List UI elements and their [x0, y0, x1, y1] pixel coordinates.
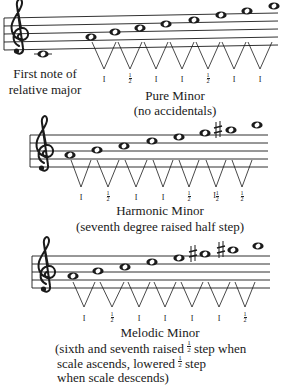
step-half: 12 — [106, 312, 118, 323]
step-one-and-half: I12 — [208, 191, 224, 202]
interval-vees — [73, 282, 255, 307]
step-whole: I — [75, 194, 87, 202]
step-whole: I — [130, 194, 142, 202]
note-g-sharp — [225, 126, 236, 133]
subtitle-pure-minor: (no accidentals) — [100, 103, 250, 118]
label-first-note-line2: relative major — [0, 82, 90, 97]
note-a — [64, 151, 75, 158]
subtitle-melodic-minor-line3: when scale descends) — [57, 370, 169, 385]
step-half: 12 — [236, 191, 248, 202]
note-e — [173, 133, 184, 140]
title-melodic-minor: Melodic Minor — [70, 325, 250, 340]
note-d — [160, 20, 171, 27]
note-c — [134, 24, 145, 31]
treble-clef-icon — [12, 0, 29, 54]
step-whole: I — [133, 315, 145, 323]
step-whole: I — [228, 76, 240, 84]
note-relative-major — [34, 50, 52, 57]
staff-pure-minor — [4, 0, 280, 69]
note-a-high — [252, 242, 263, 249]
step-half: 12 — [183, 191, 195, 202]
step-whole: I — [157, 194, 169, 202]
label-first-note-line1: First note of — [0, 66, 90, 81]
step-whole: I — [98, 76, 110, 84]
note-d — [146, 258, 157, 265]
note-b — [92, 267, 103, 274]
step-whole: I — [78, 315, 90, 323]
subtitle-harmonic-minor: (seventh degree raised half step) — [50, 219, 270, 234]
staff-melodic-minor — [32, 237, 270, 307]
note-e — [173, 254, 184, 261]
interval-vees — [71, 160, 252, 187]
step-half: 12 — [202, 73, 214, 84]
sharp-icon — [189, 245, 197, 262]
step-whole: I — [150, 76, 162, 84]
note-d — [146, 137, 157, 144]
title-harmonic-minor: Harmonic Minor — [70, 203, 250, 218]
note-f — [215, 11, 226, 18]
note-b — [109, 28, 120, 35]
step-half: 12 — [239, 312, 251, 323]
sharp-icon — [217, 241, 225, 258]
subtitle-melodic-minor-line2: scale ascends, lowered 12 step — [57, 355, 206, 371]
note-a-high — [268, 2, 279, 9]
subtitle-melodic-minor-line1: (sixth and seventh raised 12 step when — [55, 340, 246, 356]
note-g — [241, 7, 252, 14]
step-whole: I — [159, 315, 171, 323]
step-whole: I — [254, 76, 266, 84]
step-half: 12 — [102, 191, 114, 202]
staff-harmonic-minor — [30, 116, 268, 187]
step-half: 12 — [124, 73, 136, 84]
step-whole: I — [176, 76, 188, 84]
note-f — [199, 129, 210, 136]
title-pure-minor: Pure Minor — [100, 88, 250, 103]
step-whole: I — [213, 315, 225, 323]
note-b — [91, 146, 102, 153]
note-e — [188, 16, 199, 23]
note-a — [67, 272, 78, 279]
note-a-high — [251, 121, 262, 128]
note-g-sharp — [227, 246, 238, 253]
note-c — [118, 142, 129, 149]
note-f-sharp — [199, 250, 210, 257]
note-a — [85, 33, 96, 40]
step-whole: I — [186, 315, 198, 323]
note-c — [119, 263, 130, 270]
